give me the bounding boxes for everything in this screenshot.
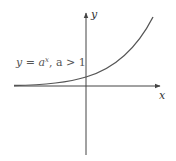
- exponential-graph: y x y = ax, a > 1: [0, 0, 176, 161]
- function-base: y = a: [15, 56, 45, 69]
- x-axis-label: x: [159, 89, 166, 102]
- function-condition: , a > 1: [49, 56, 86, 69]
- y-axis-label: y: [90, 8, 98, 21]
- function-label: y = ax, a > 1: [15, 56, 86, 69]
- exponential-curve: [14, 17, 153, 86]
